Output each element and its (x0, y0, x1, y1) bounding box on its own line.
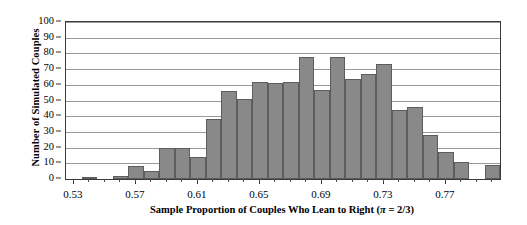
x-minor-tick-mark (212, 179, 213, 182)
x-minor-tick-mark (398, 179, 399, 182)
x-minor-tick-mark (88, 179, 89, 182)
x-minor-tick-mark (290, 179, 291, 182)
x-minor-tick-mark (305, 179, 306, 182)
x-tick-label: 0.65 (249, 188, 268, 200)
x-minor-tick-mark (119, 179, 120, 182)
x-minor-tick-mark (491, 179, 492, 182)
x-minor-tick-mark (73, 179, 74, 182)
x-tick-label: 0.69 (311, 188, 330, 200)
x-minor-tick-mark (414, 179, 415, 182)
x-minor-tick-mark (228, 179, 229, 182)
x-minor-tick-mark (460, 179, 461, 182)
x-minor-tick-mark (135, 179, 136, 182)
x-minor-tick-mark (476, 179, 477, 182)
x-tick-label: 0.57 (125, 188, 144, 200)
x-minor-tick-mark (383, 179, 384, 182)
x-minor-tick-mark (445, 179, 446, 182)
x-tick-label: 0.77 (435, 188, 454, 200)
x-minor-tick-mark (243, 179, 244, 182)
x-minor-tick-mark (352, 179, 353, 182)
x-minor-tick-mark (166, 179, 167, 182)
x-axis-label: Sample Proportion of Couples Who Lean to… (65, 204, 499, 215)
x-minor-tick-mark (259, 179, 260, 182)
x-minor-tick-mark (429, 179, 430, 182)
x-tick-label: 0.73 (373, 188, 392, 200)
x-minor-tick-mark (367, 179, 368, 182)
x-minor-tick-mark (197, 179, 198, 182)
x-axis-ticks: 0.530.570.610.650.690.730.77 (0, 0, 527, 225)
x-minor-tick-mark (181, 179, 182, 182)
pi-symbol: π (380, 204, 386, 215)
x-minor-tick-mark (150, 179, 151, 182)
x-tick-label: 0.61 (187, 188, 206, 200)
x-minor-tick-mark (274, 179, 275, 182)
x-minor-tick-mark (104, 179, 105, 182)
x-minor-tick-mark (321, 179, 322, 182)
x-tick-label: 0.53 (63, 188, 82, 200)
histogram-figure: Number of Simulated Couples 010203040506… (0, 0, 527, 225)
x-minor-tick-mark (336, 179, 337, 182)
